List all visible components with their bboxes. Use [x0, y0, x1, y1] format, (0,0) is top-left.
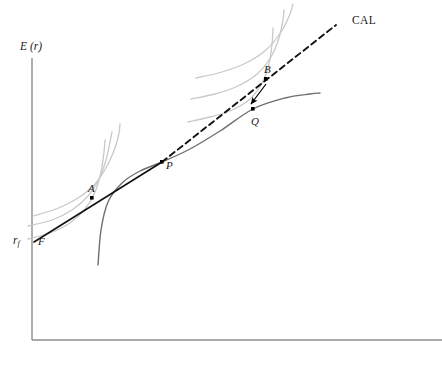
- point-label-f: F: [38, 236, 45, 247]
- point-label-a: A: [88, 183, 95, 194]
- figure-canvas: E (r) rf F A P B Q CAL: [0, 0, 442, 366]
- cal-efficient-frontier-plot: [0, 0, 442, 366]
- efficient-frontier: [98, 93, 320, 265]
- capital-allocation-line: [34, 25, 336, 242]
- rf-subscript: f: [17, 239, 19, 248]
- risk-free-rate-label: rf: [13, 235, 20, 248]
- series-CAL-solid: [34, 162, 162, 242]
- point-label-p: P: [166, 160, 173, 171]
- point-label-b: B: [264, 64, 271, 75]
- series-indifference-curve-low-3: [33, 124, 120, 216]
- data-point-q: [251, 107, 255, 111]
- cal-label: CAL: [352, 15, 376, 27]
- y-axis-label: E (r): [20, 41, 42, 53]
- data-point-a: [90, 196, 94, 200]
- plot-points: [90, 77, 268, 200]
- data-point-b: [264, 77, 268, 81]
- point-label-q: Q: [251, 116, 259, 127]
- data-point-p: [160, 160, 164, 164]
- series-indifference-curve-high-2: [191, 10, 284, 99]
- series-efficient-frontier: [98, 93, 320, 265]
- series-indifference-curve-high-1: [188, 28, 273, 122]
